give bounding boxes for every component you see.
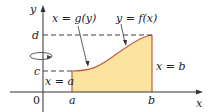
label-y-equals-f-x: y = f(x) (115, 12, 157, 25)
label-x-equals-g-y: x = g(y) (52, 12, 96, 25)
diagram-canvas: y x 0 d c a b x = g(y) y = f(x) x = b x … (0, 0, 210, 112)
origin-label: 0 (33, 94, 40, 107)
x-axis-arrow-icon (196, 90, 203, 95)
tick-label-c: c (34, 65, 40, 78)
y-axis-label: y (29, 3, 37, 16)
tick-label-d: d (32, 29, 39, 42)
shaded-region (72, 35, 152, 92)
pointer-g-arrow-icon (86, 61, 90, 67)
tick-label-a: a (69, 94, 76, 107)
rotation-arrow-icon (30, 53, 52, 60)
tick-label-b: b (148, 94, 155, 107)
label-x-equals-b: x = b (156, 60, 185, 73)
pointer-f-arrow-icon (123, 40, 127, 46)
x-axis-label: x (196, 97, 203, 110)
pointer-g (78, 26, 87, 64)
label-x-equals-a: x = a (45, 75, 74, 88)
y-axis-arrow-icon (41, 5, 46, 12)
